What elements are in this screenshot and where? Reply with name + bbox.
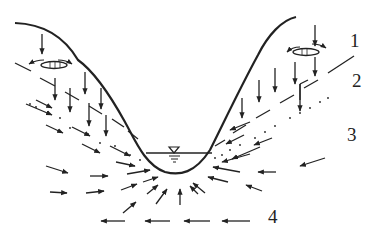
zone-label-2: 2 xyxy=(352,70,362,91)
zone-label-4: 4 xyxy=(268,206,278,227)
water-table-triangle-icon xyxy=(169,147,179,153)
zone-label-3: 3 xyxy=(347,124,357,145)
perched-lens-left xyxy=(29,60,72,69)
groundwater-flow-diagram: 1 2 3 4 xyxy=(0,0,381,244)
perched-lens-right xyxy=(287,44,326,56)
zone-boundary-dashed xyxy=(15,56,354,146)
lateral-flow-arrows-right xyxy=(190,122,325,194)
infiltration-arrows xyxy=(42,25,315,136)
zone-boundary-dotted xyxy=(29,97,329,161)
infiltration-crossbar xyxy=(300,80,308,84)
zone-label-1: 1 xyxy=(350,30,360,51)
